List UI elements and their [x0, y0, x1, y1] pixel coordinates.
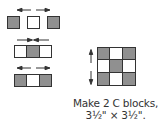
- row2-strip: [14, 45, 52, 58]
- block-cell: [123, 48, 135, 60]
- block-cell: [123, 73, 135, 85]
- row1-square-2: [27, 16, 40, 29]
- row3-cell-3: [39, 75, 51, 86]
- block-cell: [110, 48, 122, 60]
- nine-patch-block: [97, 47, 136, 86]
- caption-line-2: 3½" × 3½".: [70, 110, 161, 121]
- row2-cell-1: [15, 46, 26, 57]
- block-cell: [98, 73, 110, 85]
- row2-cell-3: [39, 46, 51, 57]
- block-cell: [123, 60, 135, 72]
- row2-cell-2: [26, 46, 38, 57]
- block-cell: [98, 48, 110, 60]
- row3-cell-2: [26, 75, 38, 86]
- block-cell: [110, 73, 122, 85]
- block-cell: [98, 60, 110, 72]
- row3-cell-1: [15, 75, 26, 86]
- block-cell: [110, 60, 122, 72]
- row3-strip: [14, 74, 52, 87]
- caption-line-1: Make 2 C blocks,: [70, 98, 161, 109]
- row1-square-1: [7, 16, 20, 29]
- row1-square-3: [47, 16, 60, 29]
